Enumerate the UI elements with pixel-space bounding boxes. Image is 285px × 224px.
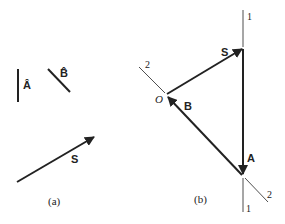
axis-2-bottom-line [245, 178, 268, 202]
vector-s-label: S [71, 153, 78, 165]
unit-vector-a-label: Â [23, 79, 31, 91]
caption-b: (b) [194, 193, 207, 206]
axis-2-top-line [139, 67, 165, 93]
vector-s-arrow [17, 137, 94, 182]
axis-1-top-label: 1 [247, 11, 252, 22]
vector-a-label: A [247, 152, 255, 164]
vector-s-arrow [167, 49, 242, 94]
origin-label: O [155, 93, 163, 105]
vector-s-label: S [221, 46, 228, 58]
caption-a: (a) [48, 195, 61, 208]
vector-b-label: B [184, 100, 192, 112]
axis-2-bottom-label: 2 [267, 189, 272, 200]
axis-1-bottom-label: 1 [246, 203, 251, 214]
panel-a: Â B̂ S (a) [17, 67, 94, 208]
panel-b: 1 2 1 2 S A B O (b) [139, 10, 272, 214]
unit-vector-b-label: B̂ [60, 67, 68, 79]
vector-b-arrow [168, 97, 242, 175]
vector-decomposition-diagram: Â B̂ S (a) 1 2 1 2 S A B O (b) [0, 0, 285, 224]
axis-2-top-label: 2 [145, 59, 150, 70]
